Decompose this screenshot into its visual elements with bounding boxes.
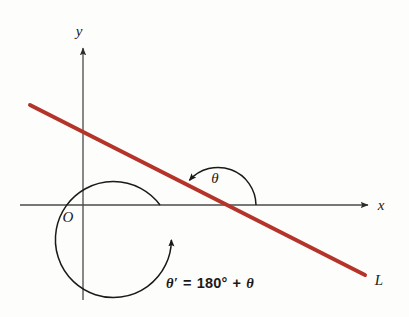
inner-angle-arc <box>190 167 257 205</box>
line-label-L: L <box>374 272 383 288</box>
equation-text: θ′=180°+θ <box>166 275 254 291</box>
line-L <box>30 105 365 275</box>
equation-theta-prime: θ′ <box>166 275 178 291</box>
x-axis-label: x <box>377 197 385 213</box>
line-L-stroke <box>30 105 365 275</box>
equation-equals: = <box>183 275 192 291</box>
equation-plus: + <box>233 275 242 291</box>
equation-value: 180° <box>197 275 228 291</box>
y-axis-label: y <box>74 23 83 39</box>
equation-group: θ′=180°+θ <box>166 275 254 291</box>
theta-label: θ <box>211 170 219 186</box>
figure-container: x y O L θ θ′=180°+θ <box>0 0 409 317</box>
origin-label: O <box>63 209 74 225</box>
outer-angle-arc <box>55 182 171 298</box>
outer-arc-path <box>55 182 171 298</box>
angle-diagram-svg: x y O L θ θ′=180°+θ <box>0 0 409 317</box>
equation-theta: θ <box>246 275 254 291</box>
inner-arc-path <box>190 167 257 205</box>
